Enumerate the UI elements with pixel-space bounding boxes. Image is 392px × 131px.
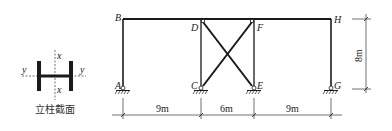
node-label-E: E [256,80,263,91]
frame-diagram: x x y y 立柱截面 [0,0,392,131]
dim-height: 8m [353,49,364,62]
hinge-D-icon [202,20,205,23]
axis-y-left-label: y [21,64,27,75]
section-caption: 立柱截面 [35,103,75,115]
node-label-C: C [191,80,198,91]
dim-span-1: 9m [156,103,169,114]
column-section: x x y y 立柱截面 [21,50,86,115]
dim-span-3: 9m [286,103,299,114]
frame-members [123,19,331,88]
right-flange [69,61,73,91]
web [41,75,69,78]
node-label-F: F [256,22,264,33]
node-label-A: A [114,80,122,91]
left-flange [37,61,41,91]
axis-y-right-label: y [79,64,85,75]
supports [115,86,338,94]
axis-x-top-label: x [56,50,62,61]
hinge-F-icon [251,20,254,23]
node-label-D: D [190,22,199,33]
node-label-H: H [333,14,342,25]
dim-span-2: 6m [220,103,233,114]
axis-x-bottom-label: x [56,84,62,95]
node-label-G: G [334,80,341,91]
node-label-B: B [115,12,121,23]
